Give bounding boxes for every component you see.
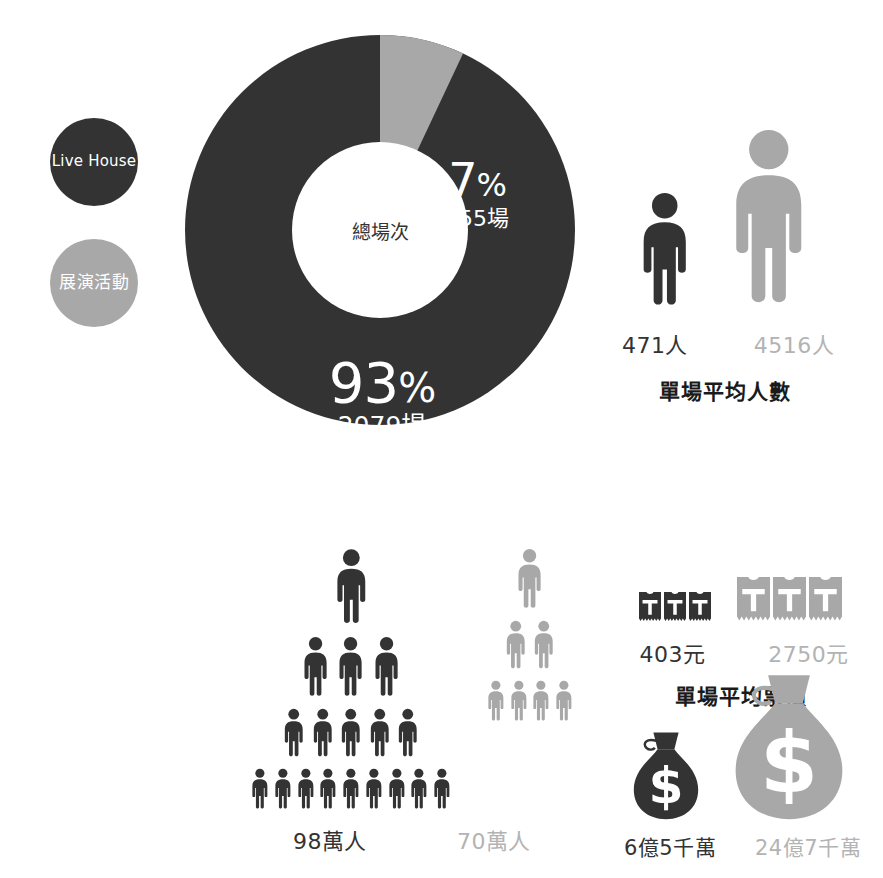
ticket-icon [737,577,770,626]
person-icon [341,768,361,810]
legend-item-exhibition: 展演活動 [50,239,138,327]
ticket-figures [608,548,873,626]
person-icon [504,620,528,670]
person-icon [318,768,338,810]
person-icon [333,548,370,626]
person-icon [432,768,452,810]
person-icon [509,680,529,726]
person-icon [273,768,293,810]
ticket-value-exhibition: 2750元 [754,636,864,668]
person-icon [515,548,544,614]
person-icon [726,127,812,313]
person-icon [509,680,529,722]
pyramid-live-house [250,548,452,814]
legend-item-live-house: Live House [50,118,138,206]
person-icon [432,768,452,814]
ticket-value-live-house: 403元 [618,636,728,668]
person-icon [250,768,270,810]
person-icon [504,620,528,674]
person-icon [387,768,407,810]
crowd-value-exhibition: 70萬人 [439,823,549,855]
legend: Live House 展演活動 [50,118,138,327]
metric-total-revenue: $ $ 6億5千萬 24億7千萬 [600,705,878,861]
person-icon [486,680,506,722]
pyramid-row [333,548,370,630]
attendance-caption: 單場平均人數 [592,375,857,405]
person-icon [637,191,692,309]
crowd-value-live-house: 98萬人 [275,823,385,855]
legend-item-label: Live House [52,154,136,170]
person-icon [368,708,392,762]
person-icon [532,620,556,674]
person-icon [250,768,270,814]
donut-chart: 總場次 7% 155場 93% 2079場 [185,35,575,425]
donut-chart-svg [185,35,575,425]
attendance-figures [592,128,857,313]
svg-text:$: $ [760,714,818,812]
revenue-figures: $ $ [600,705,878,825]
ticket-icon [773,577,806,626]
attendance-values: 471人 4516人 [592,327,857,359]
ticket-icon [737,577,770,622]
pyramid-row [301,636,400,702]
ticket-icon [639,592,661,626]
person-icon [637,191,692,313]
person-icon [311,708,335,762]
person-icon [364,768,384,814]
pyramid-row [282,708,420,762]
revenue-value-live-house: 6億5千萬 [606,831,734,861]
ticket-icon [639,592,661,622]
person-icon [726,127,812,309]
person-icon [296,768,316,814]
crowd-values: 98萬人 70萬人 [252,823,572,855]
person-icon [296,768,316,810]
person-icon [372,636,401,698]
ticket-icon [773,577,806,622]
person-icon [554,680,574,726]
donut-hole [292,142,468,318]
pyramid-row [250,768,452,814]
person-icon [368,708,392,758]
person-icon [311,708,335,758]
ticket-group-exhibition [737,577,842,626]
pyramid-row [515,548,544,614]
ticket-icon [689,592,711,626]
money-bag-icon: $ [731,673,847,821]
person-icon [396,708,420,758]
pyramid-row [504,620,556,674]
ticket-icon [689,592,711,622]
person-icon [273,768,293,814]
ticket-icon [809,577,842,622]
attendance-value-live-house: 471人 [603,327,708,359]
ticket-icon [664,592,686,626]
revenue-values: 6億5千萬 24億7千萬 [600,831,878,861]
money-bag-icon: $ [631,731,701,825]
person-icon [531,680,551,722]
person-icon [301,636,330,702]
person-icon [333,548,370,630]
person-icon [396,708,420,762]
person-icon [341,768,361,814]
person-icon [486,680,506,726]
metric-average-attendance: 471人 4516人 單場平均人數 [592,128,857,405]
person-icon [372,636,401,702]
person-icon [339,708,363,762]
person-icon [318,768,338,814]
person-icon [339,708,363,758]
money-bag-icon: $ [631,731,701,821]
person-icon [515,548,544,610]
person-icon [409,768,429,814]
person-icon [336,636,365,702]
money-bag-icon: $ [731,673,847,825]
person-icon [387,768,407,814]
person-icon [336,636,365,698]
legend-item-label: 展演活動 [59,274,129,292]
person-icon [301,636,330,698]
ticket-values: 403元 2750元 [608,636,873,668]
crowd-pyramids [252,548,572,814]
person-icon [409,768,429,810]
person-icon [282,708,306,762]
person-icon [532,620,556,670]
pyramid-row [486,680,574,726]
metric-total-audience: 98萬人 70萬人 [252,548,572,855]
